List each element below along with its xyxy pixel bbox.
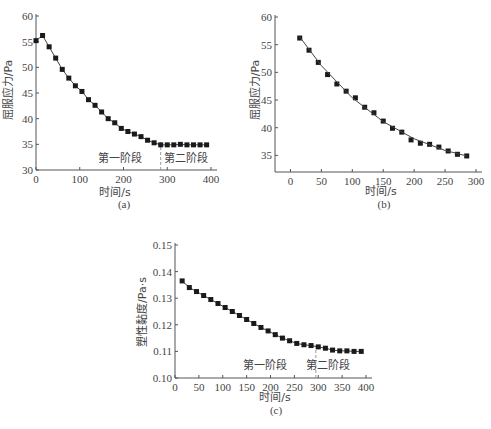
data-marker	[330, 348, 335, 353]
data-marker	[204, 142, 209, 147]
data-marker	[178, 142, 183, 147]
y-tick-label: 0.14	[153, 266, 173, 278]
y-tick-label: 60	[261, 11, 273, 23]
y-tick-label: 40	[261, 122, 273, 134]
x-tick-label: 100	[215, 381, 232, 393]
chart-a-stage1-label: 第一阶段	[98, 151, 142, 165]
series-line	[182, 281, 361, 351]
data-marker	[309, 343, 314, 348]
x-tick-label: 250	[437, 175, 454, 187]
data-marker	[344, 348, 349, 353]
chart-a-stage2-label: 第二阶段	[164, 151, 208, 165]
y-tick-label: 40	[22, 113, 34, 125]
data-marker	[119, 126, 124, 131]
x-tick-label: 400	[203, 173, 220, 185]
data-marker	[287, 338, 292, 343]
data-marker	[60, 67, 65, 72]
data-marker	[198, 142, 203, 147]
data-marker	[125, 129, 130, 134]
data-marker	[73, 83, 78, 88]
chart-c-caption: (c)	[270, 404, 283, 417]
fit-curve	[300, 37, 467, 156]
data-marker	[215, 301, 220, 306]
x-tick-label: 100	[344, 175, 361, 187]
y-tick-label: 55	[261, 39, 273, 51]
x-tick-label: 50	[193, 381, 205, 393]
data-marker	[237, 313, 242, 318]
x-tick-label: 0	[33, 173, 39, 185]
data-marker	[323, 346, 328, 351]
data-marker	[191, 142, 196, 147]
data-marker	[208, 297, 213, 302]
data-marker	[180, 278, 185, 283]
data-marker	[158, 142, 163, 147]
data-marker	[34, 38, 39, 43]
y-tick-label: 60	[22, 10, 34, 22]
chart-c-stage2-label: 第二阶段	[306, 358, 350, 372]
data-marker	[187, 285, 192, 290]
data-marker	[194, 289, 199, 294]
y-tick-label: 55	[22, 36, 34, 48]
data-marker	[301, 342, 306, 347]
data-marker	[230, 309, 235, 314]
data-marker	[132, 132, 137, 137]
data-marker	[112, 120, 117, 125]
data-marker	[53, 56, 58, 61]
data-marker	[79, 89, 84, 94]
data-marker	[244, 317, 249, 322]
data-marker	[280, 336, 285, 341]
data-marker	[93, 103, 98, 108]
y-tick-label: 30	[22, 164, 34, 176]
data-marker	[223, 305, 228, 310]
data-marker	[99, 109, 104, 114]
figure: 303540455055600100200300400 时间/s (a) 屈服应…	[0, 0, 491, 429]
y-tick-label: 0.15	[153, 239, 173, 251]
data-marker	[316, 344, 321, 349]
chart-a-ylabel: 屈服应力/Pa	[1, 60, 15, 121]
chart-b-xlabel: 时间/s	[365, 185, 397, 198]
x-tick-label: 150	[238, 381, 255, 393]
x-tick-label: 300	[159, 173, 176, 185]
data-marker	[66, 76, 71, 81]
y-tick-label: 50	[261, 66, 273, 78]
x-tick-label: 0	[288, 175, 294, 187]
data-marker	[145, 138, 150, 143]
chart-c-ylabel: 塑性黏度/Pa·s	[135, 277, 149, 347]
data-marker	[359, 349, 364, 354]
data-marker	[165, 142, 170, 147]
chart-b: 354045505560050100150200250300	[261, 11, 485, 187]
data-marker	[152, 140, 157, 145]
data-marker	[266, 328, 271, 333]
y-tick-label: 0.10	[153, 372, 173, 384]
x-tick-label: 50	[316, 175, 328, 187]
chart-a-caption: (a)	[118, 198, 131, 211]
x-tick-label: 0	[172, 381, 178, 393]
y-tick-label: 35	[261, 149, 273, 161]
data-marker	[273, 332, 278, 337]
x-tick-label: 200	[406, 175, 423, 187]
data-marker	[337, 348, 342, 353]
data-marker	[40, 33, 45, 38]
x-tick-label: 300	[310, 381, 327, 393]
y-tick-label: 45	[261, 94, 273, 106]
x-tick-label: 350	[334, 381, 351, 393]
data-marker	[86, 97, 91, 102]
chart-b-ylabel: 屈服应力/Pa	[248, 60, 262, 121]
x-tick-label: 100	[72, 173, 89, 185]
data-marker	[294, 341, 299, 346]
chart-c-xlabel: 时间/s	[259, 391, 291, 404]
x-tick-label: 200	[115, 173, 132, 185]
data-marker	[251, 321, 256, 326]
chart-c-stage1-label: 第一阶段	[243, 358, 287, 372]
data-marker	[106, 116, 111, 121]
y-tick-label: 50	[22, 61, 34, 73]
y-tick-label: 45	[22, 87, 34, 99]
data-marker	[171, 142, 176, 147]
data-marker	[352, 349, 357, 354]
y-tick-label: 35	[22, 138, 34, 150]
y-tick-label: 0.12	[153, 319, 172, 331]
data-marker	[47, 44, 52, 49]
chart-b-caption: (b)	[378, 198, 391, 211]
x-tick-label: 300	[468, 175, 485, 187]
data-marker	[258, 325, 263, 330]
